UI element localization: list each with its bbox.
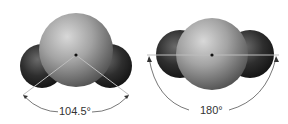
arrowhead-right-icon [274,56,279,62]
bond-angle-label: 104.5° [58,105,92,117]
arrowhead-right-icon [124,95,129,99]
center-point [74,53,77,56]
linear-molecule-panel: 180° [144,0,288,124]
bond-angle-label: 180° [199,104,224,116]
arrowhead-left-icon [147,56,152,62]
arrowhead-left-icon [23,95,28,99]
bent-molecule-panel: 104.5° [0,0,144,124]
angle-arc-right [92,97,127,112]
angle-arc-left [25,97,60,112]
central-atom [39,13,113,87]
center-point [210,53,213,56]
